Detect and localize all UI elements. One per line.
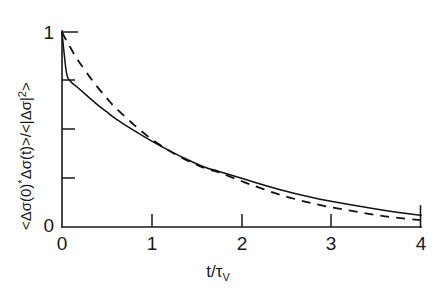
xlabel-base: t/τ [206, 262, 222, 281]
figure-container: <Δσ(0)*Δσ(t)>/<|Δσ|2> 1 0 [0, 0, 446, 294]
solid-curve [62, 32, 421, 215]
x-axis-title-text: t/τV [206, 262, 230, 283]
x-tick-label-3: 3 [326, 233, 337, 254]
ylabel-mid: Δσ(t)>/<|Δσ| [17, 97, 34, 179]
x-tick-label-0: 0 [57, 233, 68, 254]
y-tick-labels: 1 0 [43, 22, 54, 236]
x-tick-label-2: 2 [237, 233, 248, 254]
y-tick-label-1: 1 [43, 22, 54, 43]
correlation-decay-chart: <Δσ(0)*Δσ(t)>/<|Δσ|2> 1 0 [0, 0, 446, 294]
x-axis-title: t/τV [206, 262, 230, 283]
ylabel-open: <Δσ(0) [17, 184, 34, 230]
axis-frame [62, 31, 421, 227]
ylabel-close: > [17, 82, 34, 91]
x-tick-label-1: 1 [147, 233, 158, 254]
x-tick-label-4: 4 [416, 233, 427, 254]
y-tick-label-0: 0 [43, 215, 54, 236]
xlabel-subscript: V [222, 271, 230, 283]
x-axis-ticks [152, 214, 331, 227]
dashed-curve [62, 32, 421, 220]
y-axis-title: <Δσ(0)*Δσ(t)>/<|Δσ|2> [16, 82, 34, 230]
data-curves [62, 32, 421, 220]
y-axis-title-text: <Δσ(0)*Δσ(t)>/<|Δσ|2> [16, 82, 34, 230]
x-tick-labels: 0 1 2 3 4 [57, 233, 427, 254]
